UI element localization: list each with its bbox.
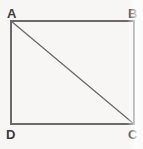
vertex-label-d: D	[6, 128, 16, 141]
vertex-label-b: B	[128, 7, 138, 20]
vertex-label-a: A	[7, 7, 17, 20]
diagonal-line-ac	[11, 21, 134, 124]
vertex-label-c: C	[128, 128, 138, 141]
rectangle-diagram-svg	[0, 0, 143, 149]
geometry-figure: A B C D	[0, 0, 143, 149]
